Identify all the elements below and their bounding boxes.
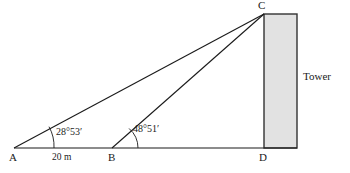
vertex-label-a: A [9,152,17,163]
distance-label-ab: 20 m [52,153,71,163]
tower-label: Tower [303,71,331,82]
vertex-label-c: C [258,0,265,11]
vertex-label-b: B [108,152,115,163]
angle-arc-a [49,127,54,148]
diagram-canvas [0,0,350,173]
tower-angle-diagram: C A B D 28°53′ 48°51′ 20 m Tower [0,0,350,173]
angle-measure-at-a: 28°53′ [56,127,82,137]
vertex-label-d: D [259,152,267,163]
tower-rectangle [264,14,297,148]
angle-measure-at-b: 48°51′ [133,124,159,134]
